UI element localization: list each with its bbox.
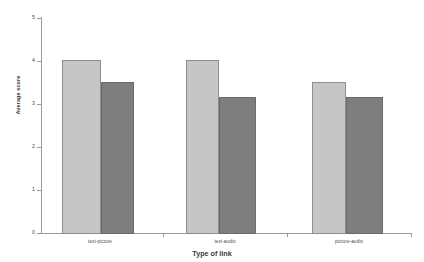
- y-tick-2: 2: [0, 147, 42, 148]
- y-tick-0: 0: [0, 233, 42, 234]
- x-tick-label-picture-audio: picture-audio: [307, 239, 391, 244]
- bar-text-audio-series-2: [219, 97, 256, 234]
- x-tick-label-text-picture: text-picture: [58, 239, 142, 244]
- y-axis-line: [41, 17, 42, 234]
- y-tick-label-4: 4: [21, 58, 35, 63]
- bar-text-audio-series-1: [186, 60, 219, 234]
- x-tick-3: [411, 233, 412, 237]
- y-tick-label-0: 0: [21, 230, 35, 235]
- y-tick-4: 4: [0, 61, 42, 62]
- x-tick-1: [163, 233, 164, 237]
- y-axis-title: Average score: [15, 59, 21, 131]
- y-tick-label-1: 1: [21, 187, 35, 192]
- bar-picture-audio-series-1: [312, 82, 346, 234]
- y-tick-3: 3: [0, 104, 42, 105]
- x-tick-label-text-audio: text-audio: [183, 239, 267, 244]
- x-axis-title: Type of link: [0, 249, 424, 258]
- bar-text-picture-series-2: [101, 82, 134, 234]
- y-tick-label-5: 5: [21, 15, 35, 20]
- y-tick-5: 5: [0, 18, 42, 19]
- bar-chart: Average score 0 1 2 3 4 5 text-picture t…: [0, 0, 424, 262]
- bar-picture-audio-series-2: [346, 97, 383, 234]
- y-tick-1: 1: [0, 190, 42, 191]
- y-tick-label-2: 2: [21, 144, 35, 149]
- y-tick-label-3: 3: [21, 101, 35, 106]
- x-tick-2: [287, 233, 288, 237]
- bar-text-picture-series-1: [62, 60, 101, 234]
